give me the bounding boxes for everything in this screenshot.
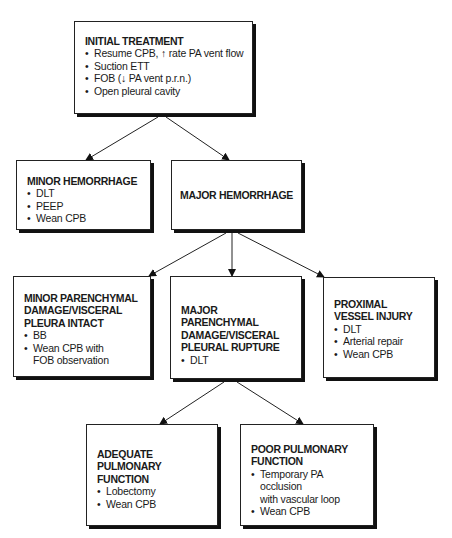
edge-major-parenchymal-to-adequate-pulmonary: [160, 382, 224, 424]
edge-major-hemorrhage-to-minor-parenchymal: [149, 233, 226, 276]
node-items: BB Wean CPB with FOB observation: [24, 329, 144, 366]
node-item: Temporary PA occlusion: [251, 468, 367, 493]
node-title-line: MINOR PARENCHYMAL: [24, 292, 144, 304]
edge-major-hemorrhage-to-proximal-vessel: [238, 233, 324, 277]
node-title: MINOR HEMORRHAGE: [27, 175, 144, 187]
node-item: Wean CPB: [97, 498, 211, 510]
node-items: Temporary PA occlusion with vascular loo…: [251, 468, 367, 518]
node-items: Resume CPB, ↑ rate PA vent flow Suction …: [85, 47, 246, 97]
node-title-line: DAMAGE/VISCERAL: [24, 304, 144, 316]
node-title-line: ADEQUATE PULMONARY: [97, 448, 211, 473]
node-item: FOB observation: [24, 354, 144, 366]
node-item: DLT: [181, 354, 295, 366]
node-items: Lobectomy Wean CPB: [97, 485, 211, 510]
node-item: Lobectomy: [97, 485, 211, 497]
node-item: BB: [24, 329, 144, 341]
node-item: Suction ETT: [85, 60, 246, 72]
node-major-hemorrhage: MAJOR HEMORRHAGE: [171, 160, 302, 230]
node-items: DLT Arterial repair Wean CPB: [334, 323, 428, 360]
node-proximal-vessel-injury: PROXIMAL VESSEL INJURY DLT Arterial repa…: [323, 277, 435, 378]
node-item: DLT: [334, 323, 428, 335]
node-item: DLT: [27, 187, 144, 199]
node-item: Wean CPB: [27, 212, 144, 224]
node-title: MAJOR HEMORRHAGE: [180, 189, 293, 201]
edge-initial-to-minor-hemorrhage: [86, 117, 158, 160]
node-minor-hemorrhage: MINOR HEMORRHAGE DLT PEEP Wean CPB: [16, 160, 151, 230]
node-title-line: MAJOR PARENCHYMAL: [181, 304, 295, 329]
node-item: PEEP: [27, 200, 144, 212]
node-item: FOB (↓ PA vent p.r.n.): [85, 72, 246, 84]
node-item: Open pleural cavity: [85, 85, 246, 97]
node-title-line: POOR PULMONARY: [251, 443, 367, 455]
node-major-parenchymal-damage: MAJOR PARENCHYMAL DAMAGE/VISCERAL PLEURA…: [170, 276, 302, 379]
node-item: Wean CPB with: [24, 342, 144, 354]
node-initial-treatment: INITIAL TREATMENT Resume CPB, ↑ rate PA …: [74, 21, 253, 114]
node-item: Resume CPB, ↑ rate PA vent flow: [85, 47, 246, 59]
node-title-line: FUNCTION: [97, 473, 211, 485]
node-title: INITIAL TREATMENT: [85, 35, 246, 47]
node-item: Wean CPB: [251, 505, 367, 517]
node-minor-parenchymal-damage: MINOR PARENCHYMAL DAMAGE/VISCERAL PLEURA…: [13, 276, 151, 377]
node-title-line: PLEURAL RUPTURE: [181, 341, 295, 353]
node-title-line: PLEURA INTACT: [24, 317, 144, 329]
node-items: DLT PEEP Wean CPB: [27, 187, 144, 224]
node-title-line: FUNCTION: [251, 455, 367, 467]
node-items: DLT: [181, 354, 295, 366]
node-item: Wean CPB: [334, 348, 428, 360]
node-title-line: DAMAGE/VISCERAL: [181, 329, 295, 341]
edge-initial-to-major-hemorrhage: [166, 117, 229, 160]
edge-major-parenchymal-to-poor-pulmonary: [237, 382, 303, 424]
node-item: Arterial repair: [334, 335, 428, 347]
node-title-line: VESSEL INJURY: [334, 310, 428, 322]
node-item-continuation: with vascular loop: [251, 493, 367, 505]
node-adequate-pulmonary-function: ADEQUATE PULMONARY FUNCTION Lobectomy We…: [86, 424, 218, 526]
node-poor-pulmonary-function: POOR PULMONARY FUNCTION Temporary PA occ…: [240, 424, 374, 526]
node-title-line: PROXIMAL: [334, 298, 428, 310]
